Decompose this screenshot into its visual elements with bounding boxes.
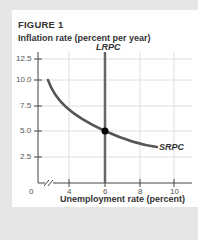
srpc-label: SRPC <box>159 142 184 152</box>
srpc-curve <box>48 80 157 147</box>
equilibrium-point <box>102 128 109 135</box>
y-tick-2-5: 2.5 <box>20 152 31 161</box>
lrpc-label: LRPC <box>96 42 121 52</box>
y-tick-10: 10.0 <box>16 75 32 84</box>
y-tick-7-5: 7.5 <box>20 101 31 110</box>
grid <box>38 52 192 183</box>
axes <box>34 52 192 187</box>
axis-break-icon <box>44 180 53 186</box>
x-axis-label: Unemployment rate (percent) <box>60 194 185 204</box>
y-tick-12-5: 12.5 <box>16 54 32 63</box>
y-tick-5: 5.0 <box>20 126 31 135</box>
x-tick-0: 0 <box>29 187 33 196</box>
